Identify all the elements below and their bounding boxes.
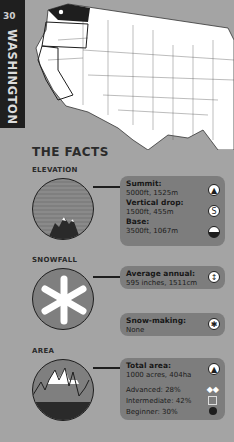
vertical-drop-value: 1500ft, 455m xyxy=(126,207,219,217)
snowfall-panel: Average annual: 595 inches, 1511cm ↕ xyxy=(120,266,225,289)
green-circle-icon xyxy=(209,407,217,415)
connector-line xyxy=(93,276,121,278)
page-number: 30 xyxy=(3,11,16,21)
summit-value: 5000ft, 1525m xyxy=(126,188,219,198)
snowmaking-value: None xyxy=(126,325,219,335)
beginner-percent: Beginner: 30% xyxy=(126,407,219,418)
vertical-drop-label: Vertical drop: xyxy=(126,198,219,207)
blue-square-icon xyxy=(208,396,217,405)
base-icon xyxy=(208,226,220,238)
guide-page: 30 WASHINGTON THE FACTS ELEVATION Summit… xyxy=(0,0,234,442)
double-diamond-icon: ◆◆ xyxy=(207,385,219,394)
snowfall-illustration xyxy=(32,268,94,330)
us-map xyxy=(28,0,234,150)
summit-label: Summit: xyxy=(126,179,219,188)
total-area-value: 1000 acres, 404ha xyxy=(126,370,219,380)
base-label: Base: xyxy=(126,217,219,226)
snow-depth-icon: ↕ xyxy=(208,271,220,283)
total-area-label: Total area: xyxy=(126,361,219,370)
state-name: WASHINGTON xyxy=(5,27,19,127)
area-panel: Total area: 1000 acres, 404ha Advanced: … xyxy=(120,358,225,420)
area-icon: ▲ xyxy=(208,363,220,375)
facts-title: THE FACTS xyxy=(32,145,109,159)
connector-line xyxy=(93,367,121,369)
snowfall-heading: SNOWFALL xyxy=(32,256,77,264)
intermediate-percent: Intermediate: 42% xyxy=(126,396,219,407)
advanced-percent: Advanced: 28% xyxy=(126,385,219,396)
elevation-panel: Summit: 5000ft, 1525m Vertical drop: 150… xyxy=(120,176,225,246)
vertical-drop-icon: S xyxy=(208,205,220,217)
summit-icon: ▲ xyxy=(208,184,220,196)
average-annual-label: Average annual: xyxy=(126,269,219,278)
area-heading: AREA xyxy=(32,347,54,355)
area-illustration xyxy=(32,359,94,421)
elevation-illustration xyxy=(32,178,94,240)
snow-cannon-icon: ✱ xyxy=(208,318,220,330)
snowflake-icon xyxy=(33,269,94,330)
average-annual-value: 595 inches, 1511cm xyxy=(126,278,219,288)
elevation-heading: ELEVATION xyxy=(32,166,78,174)
connector-line xyxy=(93,186,121,188)
mountain-icon xyxy=(33,179,94,240)
state-side-tab: 30 WASHINGTON xyxy=(0,0,25,128)
snowmaking-label: Snow-making: xyxy=(126,316,219,325)
snowmaking-panel: Snow-making: None ✱ xyxy=(120,313,225,336)
terrain-icon xyxy=(33,360,94,421)
base-value: 3500ft, 1067m xyxy=(126,226,219,236)
